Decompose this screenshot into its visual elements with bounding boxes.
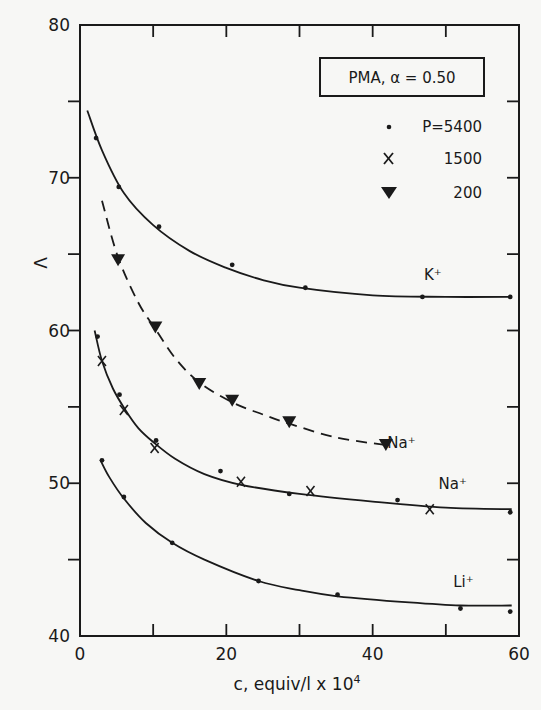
dot-marker-icon bbox=[395, 498, 400, 503]
dot-marker-icon bbox=[256, 579, 261, 584]
dot-marker-icon bbox=[95, 334, 100, 339]
y-tick-label: 50 bbox=[48, 473, 70, 493]
y-tick-label: 40 bbox=[48, 626, 70, 646]
dot-marker-icon bbox=[420, 294, 425, 299]
dot-marker-icon bbox=[117, 392, 122, 397]
dot-marker-icon bbox=[230, 262, 235, 267]
dot-marker-icon bbox=[94, 136, 99, 141]
legend-label-p1500: 1500 bbox=[444, 150, 482, 168]
dot-marker-icon bbox=[218, 469, 223, 474]
dot-marker-icon bbox=[116, 185, 121, 190]
chart-canvas: 02040604050607080 K⁺Na⁺Na⁺Li⁺ PMA, α = 0… bbox=[0, 0, 541, 710]
dot-marker-icon bbox=[387, 125, 392, 130]
dot-marker-icon bbox=[170, 540, 175, 545]
dot-marker-icon bbox=[100, 458, 105, 463]
y-tick-label: 60 bbox=[48, 321, 70, 341]
x-tick-label: 20 bbox=[216, 644, 238, 664]
chart-background bbox=[0, 0, 541, 710]
x-tick-label: 40 bbox=[362, 644, 384, 664]
dot-marker-icon bbox=[157, 224, 162, 229]
x-axis-title: c, equiv/l x 104 bbox=[234, 673, 361, 694]
curve-label: Li⁺ bbox=[453, 573, 473, 591]
x-tick-label: 60 bbox=[508, 644, 530, 664]
dot-marker-icon bbox=[508, 510, 513, 515]
legend-label-p5400: P=5400 bbox=[422, 118, 482, 136]
x-tick-label: 0 bbox=[75, 644, 86, 664]
dot-marker-icon bbox=[122, 495, 127, 500]
curve-label: K⁺ bbox=[424, 266, 442, 284]
y-axis-title: Λ bbox=[31, 257, 51, 269]
dot-marker-icon bbox=[508, 294, 513, 299]
legend-label-p200: 200 bbox=[453, 184, 482, 202]
curve-label: Na⁺ bbox=[439, 475, 467, 493]
dot-marker-icon bbox=[335, 592, 340, 597]
dot-marker-icon bbox=[508, 609, 513, 614]
y-tick-label: 70 bbox=[48, 168, 70, 188]
dot-marker-icon bbox=[287, 492, 292, 497]
dot-marker-icon bbox=[458, 606, 463, 611]
x-axis-title-text: c, equiv/l x 10 bbox=[234, 674, 354, 694]
x-axis-title-exponent: 4 bbox=[353, 673, 360, 686]
dot-marker-icon bbox=[303, 285, 308, 290]
dot-marker-icon bbox=[154, 438, 159, 443]
legend-title: PMA, α = 0.50 bbox=[348, 69, 455, 87]
y-tick-label: 80 bbox=[48, 15, 70, 35]
curve-label: Na⁺ bbox=[387, 434, 415, 452]
